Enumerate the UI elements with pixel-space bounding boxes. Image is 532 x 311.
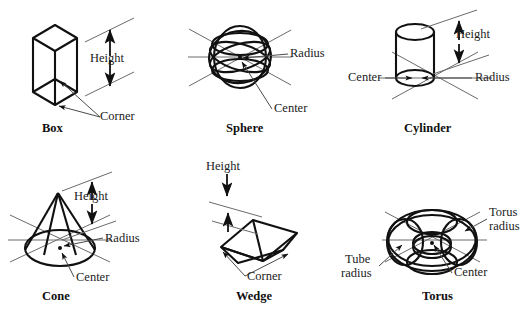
cone-center-label: Center — [76, 271, 109, 284]
sphere-caption: Sphere — [226, 121, 263, 136]
wedge-caption: Wedge — [236, 289, 272, 304]
torus-center-label: Center — [454, 266, 487, 279]
cone-shape — [25, 193, 95, 266]
cylinder-caption: Cylinder — [404, 121, 451, 136]
torus-center-dot — [430, 241, 434, 245]
torus-radius-label-line1: Torus — [489, 206, 517, 219]
wedge-corner-label: Corner — [247, 270, 282, 283]
cone-axis-lines — [8, 215, 112, 262]
cylinder-center-label: Center — [348, 71, 381, 84]
sphere-center-dot — [238, 55, 242, 59]
box-caption: Box — [42, 121, 63, 136]
sphere-radius-label: Radius — [290, 47, 325, 60]
torus-caption: Torus — [422, 289, 453, 304]
cone-center-dot — [58, 246, 62, 250]
cone-height-label: Height — [74, 190, 108, 203]
cylinder-radius-label: Radius — [475, 71, 510, 84]
figure-canvas — [0, 0, 532, 311]
box-height-label: Height — [90, 52, 124, 65]
box-shape — [33, 25, 77, 105]
sphere-center-label: Center — [274, 102, 307, 115]
cylinder-shape — [396, 24, 434, 86]
cylinder-height-label: Height — [456, 28, 490, 41]
wedge-height-dimension — [209, 202, 262, 234]
cone-radius-leader — [64, 238, 103, 246]
wedge-height-label: Height — [206, 160, 240, 173]
cone-radius-label: Radius — [105, 232, 140, 245]
torus-radius-label-line2: radius — [489, 220, 520, 233]
box-corner-label: Corner — [100, 110, 135, 123]
torus-center-leader — [434, 245, 452, 273]
wedge-height-arrow — [227, 174, 228, 232]
tube-radius-label-line1: Tube — [345, 253, 370, 266]
tube-radius-label-line2: radius — [341, 267, 372, 280]
primitives-figure: Height Corner Box Radius Center Sphere H… — [0, 0, 532, 311]
cone-caption: Cone — [42, 289, 70, 304]
